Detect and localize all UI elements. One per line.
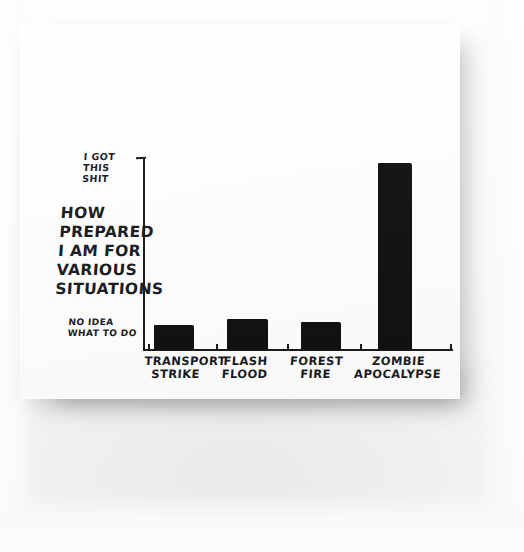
bar-zombie-apocalypse [378, 163, 412, 350]
x-axis-category-label-flash-flood: FLASH FLOOD [215, 355, 275, 382]
bar-forest-fire [301, 322, 341, 350]
x-axis-tick [450, 344, 452, 351]
x-axis-tick [287, 344, 289, 351]
backdrop-right-falloff [478, 0, 524, 552]
bar-transport-strike [154, 325, 194, 350]
y-axis-top-label: I GOT THIS SHIT [82, 152, 116, 186]
x-axis-category-label-transport-strike: TRANSPORT STRIKE [143, 355, 209, 382]
bar-chart: I GOT THIS SHIT HOW PREPARED I AM FOR VA… [20, 24, 460, 399]
x-axis-category-label-forest-fire: FOREST FIRE [285, 355, 347, 382]
x-axis-tick [148, 344, 150, 351]
x-axis-category-label-zombie-apocalypse: ZOMBIE APOCALYPSE [351, 355, 445, 382]
x-axis-tick [216, 344, 218, 351]
bar-flash-flood [227, 319, 268, 350]
backdrop-bottom-falloff [0, 492, 524, 552]
photograph-canvas: I GOT THIS SHIT HOW PREPARED I AM FOR VA… [0, 0, 524, 552]
y-axis-title: HOW PREPARED I AM FOR VARIOUS SITUATIONS [55, 204, 170, 299]
x-axis-tick [360, 344, 362, 351]
y-axis-bottom-label: NO IDEA WHAT TO DO [67, 318, 138, 340]
paper-sheet: I GOT THIS SHIT HOW PREPARED I AM FOR VA… [20, 24, 460, 399]
